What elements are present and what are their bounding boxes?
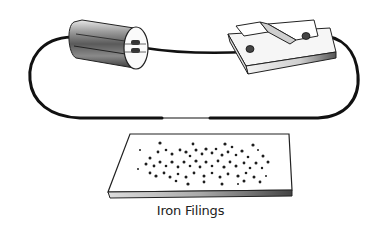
switch-terminal-left (246, 46, 254, 53)
tap-key-switch (228, 20, 336, 74)
switch-terminal-right (302, 33, 310, 40)
circuit-diagram (0, 0, 381, 233)
iron-filings-board (108, 134, 292, 198)
battery-cell (69, 20, 148, 69)
iron-filings-caption: Iron Filings (0, 203, 381, 218)
